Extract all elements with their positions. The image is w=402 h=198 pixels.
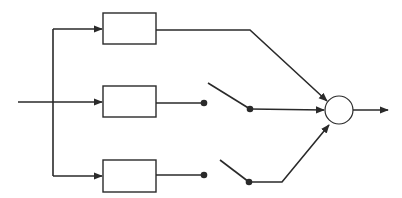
branch-1-path	[156, 30, 327, 101]
summing-junction	[325, 96, 353, 124]
block-diagram	[0, 0, 402, 198]
branch-3-to-junction	[249, 125, 329, 182]
switch-3-blade	[220, 160, 249, 182]
branch-2-to-junction	[250, 109, 324, 110]
block-branch-2	[103, 86, 156, 117]
block-branch-3	[103, 160, 156, 192]
switch-2-blade	[208, 83, 250, 109]
switch-3-terminal-a	[201, 172, 208, 179]
switch-2-terminal-a	[201, 100, 208, 107]
block-branch-1	[103, 13, 156, 44]
